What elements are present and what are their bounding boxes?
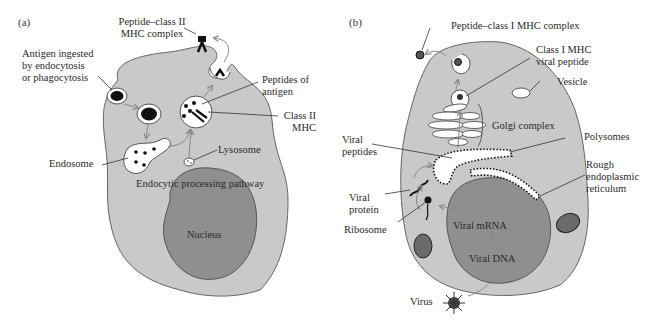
label-golgi: Golgi complex (492, 120, 555, 132)
label-viral-dna: Viral DNA (469, 253, 515, 265)
virus-particle (443, 292, 465, 314)
label-peptides-of-antigen: Peptides of antigen (262, 74, 309, 98)
label-rough-er: Rough endoplasmic reticulum (586, 159, 639, 195)
label-nucleus: Nucleus (187, 229, 221, 241)
label-lysosome: Lysosome (218, 144, 261, 156)
label-peptide-class2: Peptide–class II MHC complex (112, 16, 192, 40)
panel-b-cell (372, 28, 588, 314)
panel-a-cell (98, 28, 288, 296)
label-polysomes: Polysomes (584, 131, 630, 143)
label-class1-mhc: Class I MHC viral peptide (536, 44, 591, 68)
label-class2-mhc: Class II MHC (270, 110, 316, 134)
panel-b-label: (b) (349, 16, 362, 28)
label-viral-mrna: Viral mRNA (453, 220, 507, 232)
label-peptide-class1: Peptide–class I MHC complex (451, 20, 580, 32)
label-ribosome: Ribosome (344, 224, 387, 236)
label-viral-peptides: Viral peptides (342, 134, 377, 158)
label-endocytic-pathway: Endocytic processing pathway (136, 178, 264, 190)
label-antigen-ingested: Antigen ingested by endocytosis or phago… (22, 48, 93, 84)
panel-a-label: (a) (18, 16, 30, 28)
label-vesicle: Vesicle (557, 76, 587, 88)
label-viral-protein: Viral protein (349, 192, 379, 216)
label-endosome: Endosome (49, 158, 93, 170)
label-virus: Virus (410, 296, 433, 308)
